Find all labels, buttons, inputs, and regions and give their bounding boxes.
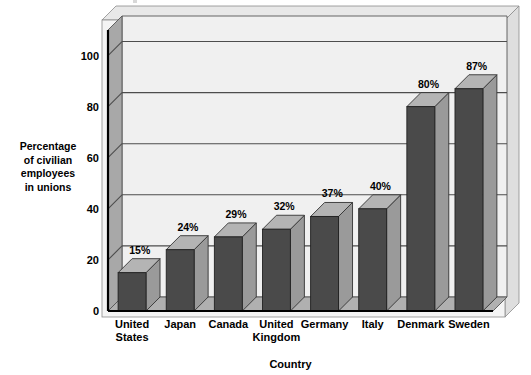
- bar-side-5: [387, 195, 401, 311]
- bar-side-2: [242, 223, 256, 311]
- x-category-label-2-line-0: Canada: [208, 318, 249, 330]
- bar-value-label-1: 24%: [177, 221, 199, 233]
- bar-value-label-5: 40%: [370, 180, 392, 192]
- y-tick-label-60: 60: [87, 152, 99, 164]
- y-tick-label-0: 0: [93, 305, 99, 317]
- x-axis-title: Country: [269, 358, 312, 370]
- bar-value-label-4: 37%: [322, 187, 344, 199]
- y-tick-label-100: 100: [81, 50, 99, 62]
- x-category-label-0-line-0: United: [115, 318, 149, 330]
- bar-side-3: [290, 215, 304, 311]
- y-tick-label-20: 20: [87, 254, 99, 266]
- x-category-label-0-line-1: States: [116, 331, 149, 343]
- y-tick-label-80: 80: [87, 101, 99, 113]
- y-tick-label-40: 40: [87, 203, 99, 215]
- bar-value-label-6: 80%: [418, 78, 440, 90]
- bar-side-4: [339, 202, 353, 311]
- bar-value-label-3: 32%: [274, 200, 296, 212]
- bar-value-label-2: 29%: [226, 208, 248, 220]
- chart-canvas: 02040608010015%UnitedStates24%Japan29%Ca…: [0, 0, 531, 375]
- x-category-label-4-line-0: Germany: [301, 318, 350, 330]
- bar-value-label-7: 87%: [466, 60, 488, 72]
- x-category-label-6-line-0: Denmark: [397, 318, 445, 330]
- clipped-title-fragment: [133, 0, 137, 3]
- bar-front-1: [166, 250, 194, 311]
- bar-side-7: [483, 75, 497, 311]
- y-axis-title-line-3: in unions: [25, 181, 72, 193]
- bar-front-0: [118, 273, 146, 311]
- x-category-label-5-line-0: Italy: [362, 318, 385, 330]
- bar-front-6: [407, 107, 435, 311]
- y-axis-title-line-1: of civilian: [24, 154, 72, 166]
- bar-value-label-0: 15%: [129, 244, 151, 256]
- bar-front-7: [455, 89, 483, 311]
- x-category-label-3-line-1: Kingdom: [253, 331, 301, 343]
- bar-front-4: [311, 216, 339, 311]
- plot-left-wall: [108, 16, 122, 311]
- y-axis-title-line-2: employees: [21, 167, 75, 179]
- bar-front-5: [359, 209, 387, 311]
- y-axis-title-line-0: Percentage: [20, 140, 77, 152]
- union-membership-bar-chart: 02040608010015%UnitedStates24%Japan29%Ca…: [0, 0, 531, 375]
- bar-side-6: [435, 93, 449, 311]
- x-category-label-3-line-0: United: [259, 318, 293, 330]
- bar-front-2: [214, 237, 242, 311]
- bar-front-3: [262, 229, 290, 311]
- x-category-label-1-line-0: Japan: [164, 318, 196, 330]
- x-category-label-7-line-0: Sweden: [448, 318, 490, 330]
